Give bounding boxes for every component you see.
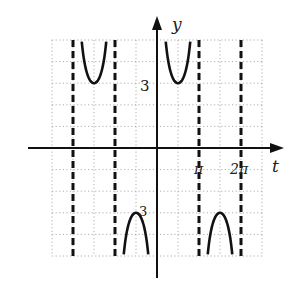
y-axis-label: y	[171, 14, 182, 34]
csc-graph: y t 3 3 π 2π	[0, 0, 297, 286]
x-tick-2pi: 2π	[229, 161, 249, 177]
curve-branch	[208, 213, 233, 255]
y-tick-neg3: 3	[139, 204, 147, 219]
x-axis-label: t	[272, 156, 279, 176]
x-tick-pi: π	[193, 161, 204, 177]
x-axis-arrow-icon	[270, 143, 284, 153]
curve-branch	[124, 213, 149, 255]
y-axis-arrow-icon	[152, 16, 162, 30]
y-tick-3: 3	[140, 77, 150, 95]
